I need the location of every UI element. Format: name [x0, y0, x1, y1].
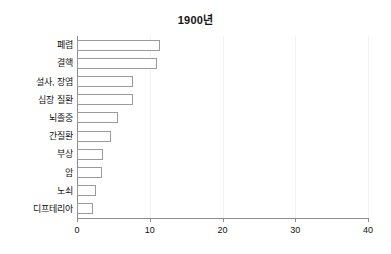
x-axis-tick	[295, 218, 296, 222]
y-axis-label: 결핵	[3, 58, 73, 68]
y-axis-label: 간질환	[3, 131, 73, 141]
bar-row	[77, 91, 368, 109]
bar-chart: 1900년 폐렴결핵설사, 장염심장 질환뇌졸중간질환부상암노쇠디프테리아 01…	[0, 0, 391, 254]
x-axis-tick	[77, 218, 78, 222]
y-axis-label: 디프테리아	[3, 204, 73, 214]
y-axis-label: 심장 질환	[3, 95, 73, 105]
bar	[77, 112, 118, 123]
bar	[77, 94, 133, 105]
bar-row	[77, 72, 368, 90]
x-axis-tick-label: 20	[203, 225, 243, 235]
x-axis-tick	[223, 218, 224, 222]
chart-title: 1900년	[0, 11, 391, 27]
bar-row	[77, 200, 368, 218]
bar-row	[77, 109, 368, 127]
x-axis-tick-label: 10	[130, 225, 170, 235]
y-axis-category-labels: 폐렴결핵설사, 장염심장 질환뇌졸중간질환부상암노쇠디프테리아	[0, 36, 73, 218]
x-axis-tick	[368, 218, 369, 222]
bar	[77, 40, 160, 51]
bar-row	[77, 127, 368, 145]
bar	[77, 149, 103, 160]
y-axis-label: 뇌졸중	[3, 113, 73, 123]
bar	[77, 185, 96, 196]
y-axis-label: 폐렴	[3, 40, 73, 50]
x-axis-tick-label: 30	[275, 225, 315, 235]
x-axis-tick-label: 40	[348, 225, 388, 235]
bar	[77, 131, 111, 142]
x-axis-tick-label: 0	[57, 225, 97, 235]
bar	[77, 203, 93, 214]
bar-row	[77, 182, 368, 200]
plot-area	[77, 36, 368, 218]
bar	[77, 58, 157, 69]
bar	[77, 167, 102, 178]
y-axis-label: 부상	[3, 149, 73, 159]
bar-row	[77, 36, 368, 54]
y-axis-label: 설사, 장염	[3, 77, 73, 87]
bar-row	[77, 163, 368, 181]
x-axis-tick	[150, 218, 151, 222]
gridline	[368, 36, 369, 218]
y-axis-label: 노쇠	[3, 186, 73, 196]
bar	[77, 76, 133, 87]
bar-row	[77, 54, 368, 72]
y-axis-label: 암	[3, 168, 73, 178]
bar-row	[77, 145, 368, 163]
